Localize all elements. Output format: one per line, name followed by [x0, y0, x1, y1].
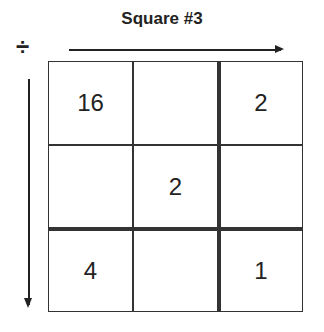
grid-cell-r1c1[interactable]: 16	[49, 62, 132, 144]
grid-cell-r2c1[interactable]	[49, 146, 132, 227]
grid-cell-r3c1[interactable]: 4	[49, 231, 132, 310]
puzzle-grid: 16 2 2 4 1	[48, 61, 303, 312]
divide-operator-icon: ÷	[16, 37, 29, 57]
grid-cell-r1c2[interactable]	[134, 62, 217, 144]
puzzle-title: Square #3	[0, 9, 324, 29]
grid-cell-r2c2[interactable]: 2	[134, 146, 217, 227]
grid-cell-r2c3[interactable]	[221, 146, 301, 227]
grid-cell-r3c3[interactable]: 1	[221, 231, 301, 310]
arrow-down-icon	[28, 79, 30, 305]
grid-cell-r3c2[interactable]	[134, 231, 217, 310]
grid-cell-r1c3[interactable]: 2	[221, 62, 301, 144]
arrow-right-icon	[69, 49, 281, 51]
